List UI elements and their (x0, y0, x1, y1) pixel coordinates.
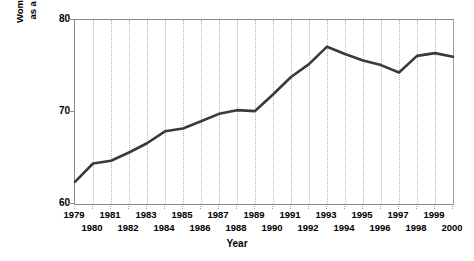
x-tick-label: 1989 (234, 209, 274, 220)
x-tick-label: 1999 (414, 209, 454, 220)
x-tick-mark (218, 204, 219, 209)
x-tick-label: 1990 (252, 222, 292, 233)
x-tick-label: 1994 (324, 222, 364, 233)
y-axis-title-line-1: Women's Weekly Earnings (14, 0, 27, 54)
y-axis-title: Women's Weekly Earnings as a Percentage … (14, 0, 44, 54)
x-tick-mark (74, 204, 75, 209)
x-tick-label: 1996 (360, 222, 400, 233)
x-tick-label: 2000 (432, 222, 472, 233)
plot-area (74, 19, 454, 205)
y-axis-ticks: 607080 (46, 0, 70, 261)
x-tick-label: 1998 (396, 222, 436, 233)
y-axis-title-line-2: as a Percentage of Men's (27, 0, 40, 54)
x-tick-mark (254, 204, 255, 209)
x-tick-mark (164, 204, 165, 209)
x-tick-mark (110, 204, 111, 209)
x-tick-mark (236, 204, 237, 209)
x-tick-label: 1984 (144, 222, 184, 233)
x-tick-mark (92, 204, 93, 209)
x-tick-mark (290, 204, 291, 209)
x-tick-mark (344, 204, 345, 209)
x-tick-label: 1983 (126, 209, 166, 220)
x-tick-label: 1993 (306, 209, 346, 220)
x-tick-label: 1991 (270, 209, 310, 220)
x-tick-mark (272, 204, 273, 209)
x-tick-mark (200, 204, 201, 209)
x-tick-mark (146, 204, 147, 209)
x-tick-label: 1982 (108, 222, 148, 233)
x-tick-mark (398, 204, 399, 209)
x-tick-label: 1980 (72, 222, 112, 233)
x-tick-mark (452, 204, 453, 209)
x-tick-mark (128, 204, 129, 209)
y-tick-label: 60 (50, 197, 70, 208)
y-tick-label: 70 (50, 105, 70, 116)
x-tick-label: 1981 (90, 209, 130, 220)
x-tick-label: 1988 (216, 222, 256, 233)
x-tick-mark (362, 204, 363, 209)
x-tick-mark (434, 204, 435, 209)
x-tick-label: 1987 (198, 209, 238, 220)
x-tick-label: 1985 (162, 209, 202, 220)
gridline (453, 20, 454, 204)
x-axis-title: Year (0, 238, 474, 249)
x-tick-mark (182, 204, 183, 209)
x-tick-mark (416, 204, 417, 209)
data-series-line (75, 20, 453, 204)
x-tick-label: 1979 (54, 209, 94, 220)
x-tick-mark (326, 204, 327, 209)
x-tick-label: 1986 (180, 222, 220, 233)
x-tick-label: 1997 (378, 209, 418, 220)
y-tick-mark (68, 19, 74, 20)
y-tick-mark (68, 111, 74, 112)
x-tick-label: 1992 (288, 222, 328, 233)
series-polyline (75, 47, 453, 182)
x-tick-mark (308, 204, 309, 209)
chart-container: Women's Weekly Earnings as a Percentage … (0, 0, 474, 261)
y-tick-label: 80 (50, 13, 70, 24)
x-tick-label: 1995 (342, 209, 382, 220)
x-tick-mark (380, 204, 381, 209)
